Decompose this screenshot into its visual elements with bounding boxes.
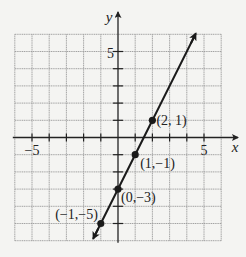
y-tick-label: 5 <box>107 46 114 61</box>
arrow-up-right-icon <box>191 33 196 43</box>
data-point <box>149 117 156 124</box>
point-label: (2, 1) <box>156 113 187 129</box>
point-label: (−1,−5) <box>55 207 98 223</box>
plotted-line <box>93 33 196 239</box>
coordinate-plane: (−1,−5)(0,−3)(1,−1)(2, 1)−555xy <box>0 0 246 257</box>
data-point <box>132 151 139 158</box>
point-label: (1,−1) <box>140 156 175 172</box>
point-label: (0,−3) <box>121 190 156 206</box>
data-point <box>97 220 104 227</box>
x-tick-label: 5 <box>201 143 208 158</box>
x-axis-label: x <box>231 139 239 155</box>
y-axis-label: y <box>104 9 113 25</box>
x-tick-label: −5 <box>25 143 40 158</box>
labels: (−1,−5)(0,−3)(1,−1)(2, 1)−555xy <box>25 9 239 223</box>
arrow-down-left-icon <box>93 229 98 239</box>
line-segment <box>95 37 194 236</box>
